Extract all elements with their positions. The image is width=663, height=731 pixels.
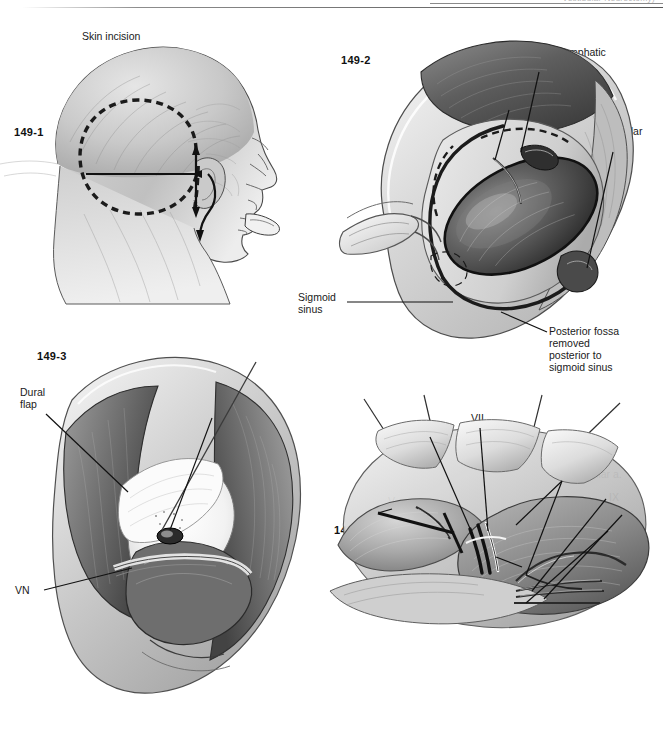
- figure-149-4-illustration: [320, 395, 663, 635]
- figure-149-3-illustration: [10, 340, 330, 720]
- figure-149-3: 149-3 Dural flap Endolymphatic sac VN: [10, 340, 330, 720]
- figure-149-1-illustration: [0, 14, 320, 314]
- figure-149-2-illustration: [325, 20, 663, 390]
- figure-149-2: 149-2 Endolymphatic sac VII Jugular bulb…: [325, 20, 663, 390]
- running-head: Vestibular Neurectomy): [0, 0, 663, 14]
- header-rule-secondary: [430, 3, 663, 4]
- figure-149-4: 149-4 VIII VII V Anterior inferior cereb…: [320, 395, 663, 635]
- header-rule: [22, 7, 663, 8]
- figure-149-1: 149-1 Skin incision: [0, 14, 320, 314]
- label-sigmoid-sinus-line2: sinus: [298, 303, 323, 316]
- atlas-page: Vestibular Neurectomy) 149-1 Skin incisi…: [0, 0, 663, 731]
